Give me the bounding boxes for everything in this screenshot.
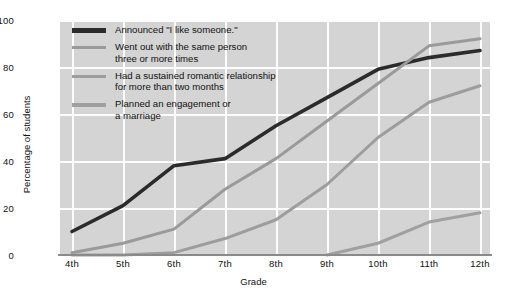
legend-item-label: Went out with the same person three or m… <box>115 41 247 64</box>
series-line <box>327 213 480 255</box>
legend: Announced "I like someone."Went out with… <box>72 24 372 127</box>
x-axis-tick-label: 6th <box>154 258 194 269</box>
legend-color-swatch <box>72 103 106 106</box>
legend-color-swatch <box>72 75 106 78</box>
legend-item: Went out with the same person three or m… <box>72 41 372 64</box>
line-chart-figure: 100806040200 4th5th6th7th8th9th10th11th1… <box>0 0 507 298</box>
x-axis-tick-label: 11th <box>409 258 449 269</box>
y-axis-tick-label: 100 <box>0 15 14 26</box>
legend-item-label: Announced "I like someone." <box>115 24 238 36</box>
y-axis-tick-label: 40 <box>0 156 14 167</box>
y-axis-tick-label: 80 <box>0 62 14 73</box>
legend-color-swatch <box>72 28 106 33</box>
x-axis-line <box>58 254 492 256</box>
legend-item: Planned an engagement or a marriage <box>72 98 372 121</box>
x-axis-tick-label: 8th <box>256 258 296 269</box>
legend-item: Had a sustained romantic relationship fo… <box>72 70 372 93</box>
legend-item-label: Planned an engagement or a marriage <box>115 98 231 121</box>
y-axis-tick-label: 0 <box>0 250 14 261</box>
y-axis-title: Percentage of students <box>21 75 32 215</box>
x-axis-tick-label: 4th <box>52 258 92 269</box>
legend-item-label: Had a sustained romantic relationship fo… <box>115 70 276 93</box>
x-axis-tick-label: 5th <box>103 258 143 269</box>
legend-item: Announced "I like someone." <box>72 24 372 36</box>
x-axis-tick-label: 9th <box>307 258 347 269</box>
y-axis-tick-label: 60 <box>0 109 14 120</box>
legend-color-swatch <box>72 46 106 49</box>
x-axis-tick-label: 7th <box>205 258 245 269</box>
x-axis-tick-label: 12th <box>460 258 500 269</box>
x-axis-title: Grade <box>0 276 507 287</box>
x-axis-tick-label: 10th <box>358 258 398 269</box>
y-axis-tick-label: 20 <box>0 203 14 214</box>
